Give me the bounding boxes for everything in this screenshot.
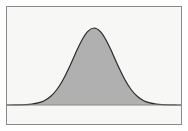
figure-root xyxy=(0,0,188,131)
distribution-fill-area xyxy=(7,28,181,105)
plot-frame xyxy=(6,6,182,125)
bell-curve-chart xyxy=(7,7,181,124)
